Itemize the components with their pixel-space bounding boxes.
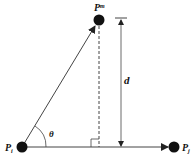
label-pm: Pm bbox=[94, 2, 105, 13]
point-pm bbox=[94, 15, 105, 26]
diagonal-vector bbox=[22, 26, 95, 147]
label-theta: θ bbox=[49, 129, 54, 139]
diagram: Pm Pi Pj θ d bbox=[0, 0, 194, 168]
geometry-canvas: Pm Pi Pj θ d bbox=[0, 0, 194, 168]
point-pi bbox=[17, 142, 28, 153]
label-pj: Pj bbox=[182, 142, 190, 154]
label-distance: d bbox=[124, 74, 130, 86]
angle-arc bbox=[35, 126, 46, 147]
right-angle-marker bbox=[91, 139, 99, 147]
label-pi: Pi bbox=[5, 142, 13, 154]
point-pj bbox=[169, 142, 180, 153]
